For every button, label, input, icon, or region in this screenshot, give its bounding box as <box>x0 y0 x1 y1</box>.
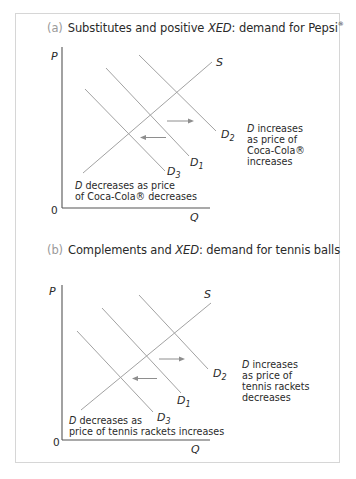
demand-curve-d1 <box>102 308 181 393</box>
label-d1: D1 <box>177 394 191 409</box>
label-s: S <box>204 288 211 301</box>
arrow-right-icon <box>159 357 185 362</box>
panel-b-chart: P Q 0 S D2 D1 D3 D increases as price of… <box>0 0 356 479</box>
annotation-decrease: D decreases as price of tennis rackets i… <box>69 415 224 437</box>
label-d3: D3 <box>157 411 171 426</box>
annotation-increase: D increases as price of tennis rackets d… <box>242 359 313 403</box>
origin-label: 0 <box>53 436 60 448</box>
x-axis-label: Q <box>191 443 200 456</box>
arrow-left-icon <box>132 376 157 381</box>
label-d2: D2 <box>213 367 227 382</box>
y-axis-label: P <box>49 285 56 298</box>
demand-curve-d3 <box>77 331 153 412</box>
demand-curve-d2 <box>139 295 208 369</box>
